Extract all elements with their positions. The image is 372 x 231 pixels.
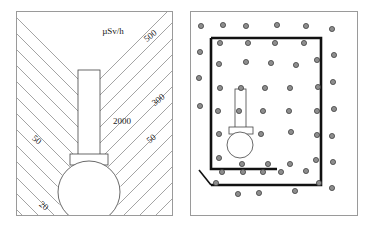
grid-dot xyxy=(301,40,306,45)
grid-dot xyxy=(196,75,201,80)
grid-dot xyxy=(197,49,202,54)
grid-dot xyxy=(197,103,202,108)
grid-dot xyxy=(216,131,221,136)
grid-dot xyxy=(313,157,318,162)
grid-dot xyxy=(262,85,267,90)
grid-dot xyxy=(314,132,319,137)
grid-dot xyxy=(239,161,244,166)
grid-dot xyxy=(329,185,334,190)
grid-dot xyxy=(288,129,293,134)
grid-dot xyxy=(278,169,283,174)
contour-label-20: 20 xyxy=(37,199,51,213)
grid-dot xyxy=(316,180,321,185)
grid-dot xyxy=(315,84,320,89)
source-sphere xyxy=(227,132,253,158)
grid-dot xyxy=(217,40,222,45)
grid-dot xyxy=(265,161,270,166)
grid-dot xyxy=(216,155,221,160)
grid-dot xyxy=(238,85,243,90)
source-stem xyxy=(78,70,100,156)
grid-dot xyxy=(314,108,319,113)
grid-dot xyxy=(236,108,241,113)
grid-dot xyxy=(240,169,245,174)
grid-dot xyxy=(243,23,248,28)
grid-dot xyxy=(330,79,335,84)
grid-dot xyxy=(235,191,240,196)
grid-dot xyxy=(272,40,277,45)
grid-dot xyxy=(287,161,292,166)
contour-label-500: 500 xyxy=(142,27,159,43)
grid-dot xyxy=(219,169,224,174)
grid-dot xyxy=(215,108,220,113)
grid-dot xyxy=(331,106,336,111)
contour-label-300: 300 xyxy=(150,91,167,107)
grid-dot xyxy=(198,23,203,28)
grid-dot xyxy=(245,40,250,45)
shielding-chute-line xyxy=(199,170,211,185)
grid-dot xyxy=(314,57,319,62)
source-sphere xyxy=(58,161,120,215)
grid-dot xyxy=(331,52,336,57)
grid-dot xyxy=(286,108,291,113)
grid-dot xyxy=(293,62,298,67)
shielded-enclosure-panel xyxy=(190,11,358,216)
grid-dot xyxy=(303,23,308,28)
grid-dot xyxy=(292,188,297,193)
grid-dot xyxy=(220,22,225,27)
grid-dot xyxy=(216,61,221,66)
measurement-point-grid xyxy=(196,22,336,196)
grid-dot xyxy=(256,190,261,195)
grid-dot xyxy=(258,131,263,136)
figure-root: µSv/h 500 300 2000 50 50 20 xyxy=(0,0,372,231)
enclosure-plot-svg xyxy=(191,12,357,215)
grid-dot xyxy=(274,22,279,27)
contour-label-unit: µSv/h xyxy=(102,26,124,36)
contour-plot-svg: µSv/h 500 300 2000 50 50 20 xyxy=(17,12,172,215)
grid-dot xyxy=(329,133,334,138)
grid-dot xyxy=(287,85,292,90)
grid-dot xyxy=(329,26,334,31)
grid-dot xyxy=(303,168,308,173)
grid-dot xyxy=(260,169,265,174)
grid-dot xyxy=(243,59,248,64)
grid-dot xyxy=(217,85,222,90)
contour-label-2000: 2000 xyxy=(113,116,132,126)
dose-rate-contour-panel: µSv/h 500 300 2000 50 50 20 xyxy=(16,11,173,216)
contour-label-50-left: 50 xyxy=(30,133,44,147)
contour-label-50-right: 50 xyxy=(145,132,159,146)
grid-dot xyxy=(268,60,273,65)
grid-dot xyxy=(260,108,265,113)
grid-dot xyxy=(330,159,335,164)
grid-dot xyxy=(213,180,218,185)
